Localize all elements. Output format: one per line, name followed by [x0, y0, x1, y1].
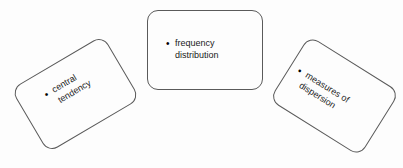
node-frequency-distribution-line-2: distribution	[175, 50, 219, 62]
diagram-canvas: central tendency frequency distribution …	[0, 0, 403, 168]
node-frequency-distribution-line-1: frequency	[175, 38, 219, 50]
node-frequency-distribution-label: frequency distribution	[175, 38, 219, 61]
